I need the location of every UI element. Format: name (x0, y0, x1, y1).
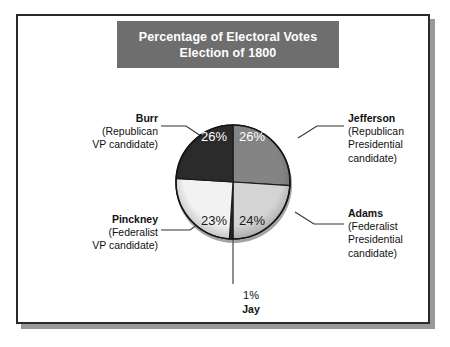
slice-label-jefferson: 26% (239, 129, 265, 144)
callout-pinckney-line2: (Federalist (28, 226, 158, 239)
pie-slice-adams[interactable] (233, 182, 290, 239)
callout-jefferson-line3: Presidential (348, 138, 450, 151)
chart-title-line-1: Percentage of Electoral Votes (139, 29, 317, 45)
callout-jay-name: Jay (214, 303, 288, 316)
leader-line-jefferson (298, 126, 344, 138)
callout-burr-line3: VP candidate) (36, 138, 158, 151)
callout-adams-line3: Presidential (348, 233, 450, 246)
callout-adams: Adams (Federalist Presidential candidate… (348, 207, 450, 260)
slice-label-pinckney: 23% (201, 213, 227, 228)
callout-pinckney: Pinckney (Federalist VP candidate) (28, 213, 158, 253)
callout-burr-name: Burr (36, 112, 158, 125)
callout-burr: Burr (Republican VP candidate) (36, 112, 158, 152)
callout-adams-name: Adams (348, 207, 450, 220)
chart-figure-frame: Percentage of Electoral Votes Election o… (16, 14, 430, 324)
callout-burr-line2: (Republican (36, 125, 158, 138)
chart-title-line-2: Election of 1800 (180, 45, 277, 61)
callout-pinckney-line3: VP candidate) (28, 239, 158, 252)
pie-slice-pinckney[interactable] (176, 178, 233, 238)
callout-pinckney-name: Pinckney (28, 213, 158, 226)
slice-label-adams: 24% (239, 213, 265, 228)
pie-chart-svg: 26% 24% 23% 26% (174, 88, 292, 268)
callout-jefferson-name: Jefferson (348, 112, 450, 125)
slice-label-burr: 26% (201, 129, 227, 144)
callout-jefferson-line2: (Republican (348, 125, 450, 138)
callout-adams-line4: candidate) (348, 247, 450, 260)
callout-jefferson: Jefferson (Republican Presidential candi… (348, 112, 450, 165)
pie-slices (176, 125, 290, 239)
pie-chart: 26% 24% 23% 26% (174, 88, 292, 268)
callout-jefferson-line4: candidate) (348, 152, 450, 165)
callout-adams-line2: (Federalist (348, 220, 450, 233)
callout-jay: 1% Jay (214, 289, 288, 316)
leader-line-adams (295, 212, 344, 224)
callout-jay-percent: 1% (243, 289, 259, 301)
chart-title-banner: Percentage of Electoral Votes Election o… (117, 21, 339, 68)
